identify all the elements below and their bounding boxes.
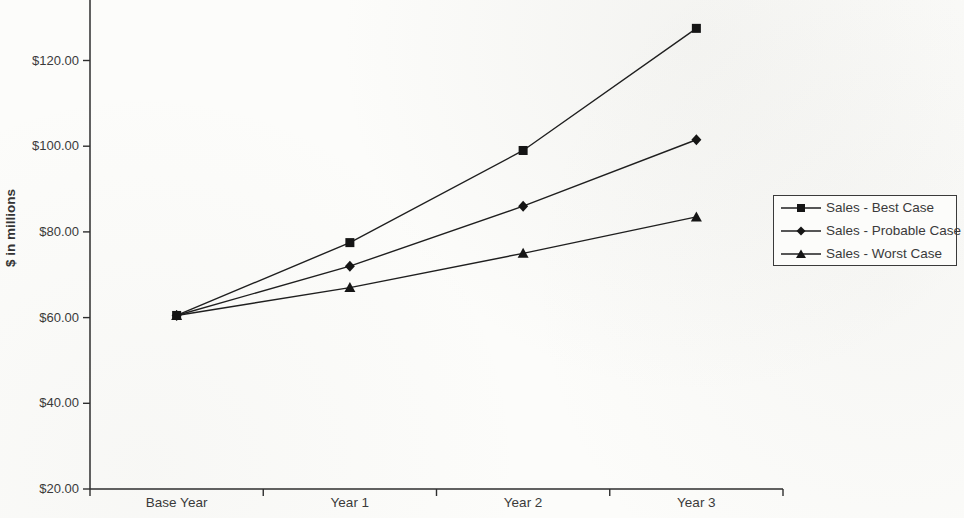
legend-label: Sales - Worst Case xyxy=(826,246,942,261)
x-axis-category-label: Year 1 xyxy=(280,495,420,511)
data-point-square xyxy=(692,24,701,33)
legend-label: Sales - Probable Case xyxy=(826,223,961,238)
data-point-diamond xyxy=(518,201,528,212)
data-point-square xyxy=(172,311,181,320)
data-point-square xyxy=(345,238,354,247)
legend-entry: Sales - Probable Case xyxy=(780,219,956,242)
legend-entries: Sales - Best CaseSales - Probable CaseSa… xyxy=(780,196,956,265)
y-axis-tick-label: $100.00 xyxy=(0,138,79,154)
legend-entry: Sales - Worst Case xyxy=(780,242,956,265)
x-axis-category-label: Base Year xyxy=(107,495,247,511)
line-chart-figure: $ in millions $20.00$40.00$60.00$80.00$1… xyxy=(0,0,964,518)
legend-entry: Sales - Best Case xyxy=(780,196,956,219)
x-axis-category-label: Year 2 xyxy=(453,495,593,511)
legend-marker-triangle-icon xyxy=(780,247,824,261)
legend-marker-square-icon xyxy=(780,201,824,215)
legend-marker-diamond-icon xyxy=(780,224,824,238)
series-line-sales-best-case xyxy=(177,28,697,315)
series-line-sales-probable-case xyxy=(177,140,697,316)
data-point-diamond xyxy=(345,261,355,272)
data-point-triangle xyxy=(691,211,702,221)
y-axis-tick-label: $40.00 xyxy=(0,395,79,411)
y-axis-tick-label: $60.00 xyxy=(0,310,79,326)
data-point-diamond xyxy=(691,134,701,145)
legend-box: Sales - Best CaseSales - Probable CaseSa… xyxy=(773,195,957,266)
data-point-square xyxy=(519,146,528,155)
y-axis-tick-label: $20.00 xyxy=(0,481,79,497)
y-axis-tick-label: $80.00 xyxy=(0,224,79,240)
series-line-sales-worst-case xyxy=(177,217,697,316)
legend-label: Sales - Best Case xyxy=(826,200,934,215)
y-axis-tick-label: $120.00 xyxy=(0,53,79,69)
x-axis-category-label: Year 3 xyxy=(626,495,766,511)
